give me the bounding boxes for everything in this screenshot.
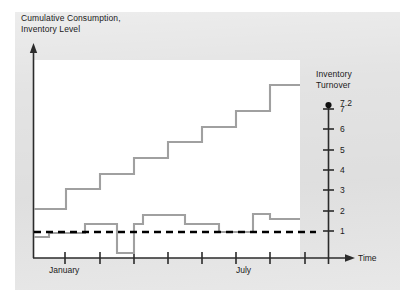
inventory-turnover-axis	[323, 102, 334, 264]
turnover-tick-labels: 1 2 3 4 5 6 7	[340, 104, 345, 236]
svg-text:5: 5	[340, 145, 345, 155]
svg-text:4: 4	[340, 165, 345, 175]
y-axis	[30, 43, 37, 258]
series-cumulative-consumption	[34, 85, 300, 209]
chart-canvas: 1 2 3 4 5 6 7	[0, 0, 417, 300]
x-axis	[33, 254, 355, 262]
svg-text:6: 6	[340, 124, 345, 134]
svg-text:3: 3	[340, 185, 345, 195]
svg-text:1: 1	[340, 226, 345, 236]
chart-figure: Cumulative Consumption, Inventory Level …	[0, 0, 417, 300]
series-inventory-level	[34, 214, 300, 253]
svg-text:2: 2	[340, 206, 345, 216]
svg-text:7: 7	[340, 104, 345, 114]
